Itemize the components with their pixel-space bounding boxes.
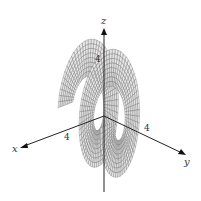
z-axis-arrow bbox=[101, 28, 107, 35]
surface-patch bbox=[125, 108, 127, 112]
surface-patch bbox=[115, 100, 117, 106]
x-axis-arrow bbox=[20, 143, 28, 148]
surface-patch bbox=[132, 115, 134, 120]
surface-patch bbox=[109, 82, 111, 87]
surface-patch bbox=[90, 53, 93, 58]
surface-patch bbox=[138, 110, 140, 117]
surface-patch bbox=[129, 111, 131, 115]
y-axis-label: y bbox=[183, 156, 190, 167]
surface-patch bbox=[117, 100, 119, 107]
surface-patch bbox=[85, 40, 88, 46]
surface-patch bbox=[107, 101, 109, 105]
y-tick-label: 4 bbox=[144, 123, 150, 133]
surface-patch bbox=[130, 111, 132, 116]
surface-patch bbox=[88, 44, 91, 49]
x-axis-label: x bbox=[12, 143, 18, 154]
surface-patch bbox=[79, 111, 81, 118]
surface-patch bbox=[134, 110, 136, 116]
surface-patch bbox=[109, 54, 112, 59]
surface-patch bbox=[109, 101, 111, 106]
surface-patch bbox=[136, 110, 138, 116]
surface-patch bbox=[106, 101, 108, 105]
surface-patch bbox=[88, 67, 90, 72]
surface-patch bbox=[125, 112, 127, 115]
surface-patch bbox=[91, 44, 94, 49]
surface-patch bbox=[109, 77, 111, 82]
surface-plot: z x y 4 4 4 bbox=[0, 0, 201, 201]
surface-patch bbox=[112, 49, 115, 54]
surface-patch bbox=[91, 48, 94, 53]
surface-patch bbox=[58, 101, 60, 108]
surface-patch bbox=[111, 101, 113, 106]
surface-patch bbox=[109, 49, 112, 54]
surface-patch bbox=[91, 39, 94, 44]
surface-patch bbox=[88, 53, 90, 58]
surface-patch bbox=[109, 58, 112, 63]
surface-patch bbox=[109, 63, 111, 68]
surface-patch bbox=[88, 58, 90, 63]
surface-patch bbox=[79, 117, 81, 124]
surface-patch bbox=[100, 127, 102, 134]
surface-patch bbox=[111, 68, 113, 73]
surface-patch bbox=[112, 58, 115, 63]
surface-patch bbox=[109, 72, 111, 77]
surface-patch bbox=[88, 62, 90, 67]
x-tick-label: 4 bbox=[64, 132, 70, 142]
surface-patch bbox=[88, 48, 91, 53]
surface-patch bbox=[109, 68, 111, 73]
z-axis-label: z bbox=[100, 15, 107, 26]
surface-patch bbox=[112, 63, 115, 68]
surface-patch bbox=[115, 49, 118, 54]
surface-patch bbox=[113, 100, 115, 106]
z-tick-label: 4 bbox=[95, 54, 101, 64]
surface-patch bbox=[88, 39, 91, 44]
surface-patch bbox=[132, 111, 134, 116]
surface-patch bbox=[112, 54, 115, 59]
surface-patch bbox=[90, 58, 92, 63]
